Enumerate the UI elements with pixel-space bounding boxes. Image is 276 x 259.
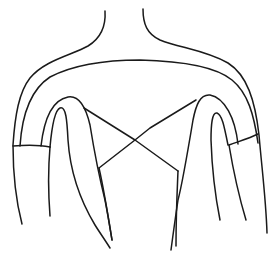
left-sleeve-cuff — [13, 145, 50, 147]
right-sleeve-inner-edge — [229, 145, 246, 220]
figure-canvas: Line drawing of the back of a garment (b… — [0, 0, 276, 259]
right-back-panel-edge — [176, 171, 178, 246]
left-back-panel-edge — [99, 168, 112, 240]
strap-left-to-right — [84, 108, 178, 171]
right-sleeve-cuff — [229, 134, 258, 145]
strap-right-to-left — [99, 100, 196, 168]
right-armhole-inner — [211, 113, 228, 220]
left-sleeve-inner-edge — [49, 147, 51, 216]
right-armhole-outer — [171, 95, 238, 250]
neck-left-outline — [13, 11, 105, 224]
garment-drawing — [0, 0, 276, 259]
